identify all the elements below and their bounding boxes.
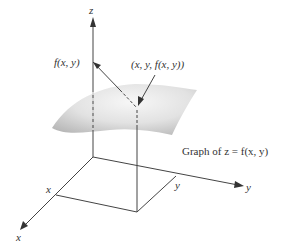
height-arrow-icon xyxy=(93,62,101,69)
z-axis-label: z xyxy=(88,4,94,16)
base-line-x-to-point xyxy=(56,195,137,212)
graph-caption: Graph of z = f(x, y) xyxy=(182,145,269,158)
x-tick-label: x xyxy=(45,183,51,195)
y-axis xyxy=(93,157,238,185)
x-axis-arrow-icon xyxy=(20,221,28,230)
x-axis xyxy=(24,157,93,226)
y-axis-arrow-icon xyxy=(234,181,244,188)
surface-patch xyxy=(52,84,197,135)
point-label: (x, y, f(x, y)) xyxy=(131,58,184,71)
base-line-y-to-point xyxy=(137,176,176,212)
surface-graph-diagram: z x y x y f(x, y) (x, y, f(x, y)) Graph … xyxy=(0,0,286,250)
y-axis-label: y xyxy=(245,181,251,193)
height-label: f(x, y) xyxy=(54,56,80,69)
x-axis-label: x xyxy=(15,231,21,243)
z-axis-arrow-icon xyxy=(90,17,96,27)
y-tick-label: y xyxy=(174,179,180,191)
